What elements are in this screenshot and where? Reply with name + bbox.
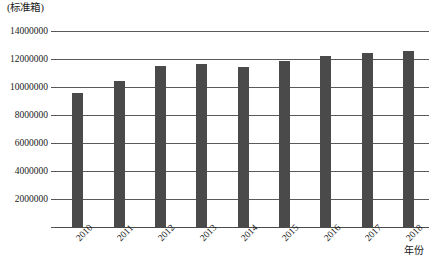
x-axis-title: 年份 [404,245,424,256]
gridline [57,59,429,60]
y-axis-tick-labels: 1400000012000000100000008000000600000040… [0,0,57,274]
bar [279,61,290,227]
y-tick-label: 10000000 [10,82,48,92]
x-axis-tick-labels: 201020112012201320142015201620172018 [57,228,429,274]
bar [114,81,125,227]
y-tick-label: 14000000 [10,26,48,36]
bar [72,93,83,227]
y-tick-label: 8000000 [15,110,48,120]
bar [320,56,331,227]
bar [403,51,414,227]
bar [196,64,207,227]
y-tick-label: 6000000 [15,138,48,148]
bar [362,53,373,227]
y-tick-label: 4000000 [15,166,48,176]
bar [155,66,166,227]
y-tick-label: 2000000 [15,194,48,204]
y-tick-label: 12000000 [10,54,48,64]
bar-chart: (标准箱) 1400000012000000100000008000000600… [0,0,437,274]
plot-area [57,31,429,227]
gridline [57,31,429,32]
bar [238,67,249,227]
